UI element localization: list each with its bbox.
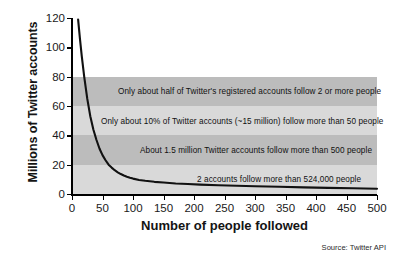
annotation-2: Only about 10% of Twitter accounts (~15 … xyxy=(101,116,383,125)
annotation-1: Only about half of Twitter's registered … xyxy=(118,87,381,96)
x-tick-label: 300 xyxy=(245,202,264,214)
x-tick xyxy=(103,195,104,200)
x-tick xyxy=(286,195,287,200)
x-tick xyxy=(225,195,226,200)
y-tick-label: 80 xyxy=(52,71,65,83)
x-tick-label: 350 xyxy=(276,202,295,214)
x-tick xyxy=(164,195,165,200)
y-axis-title: Millions of Twitter accounts xyxy=(26,7,40,197)
x-tick xyxy=(72,195,73,200)
annotation-4: 2 accounts follow more than 524,000 peop… xyxy=(197,175,361,184)
x-tick xyxy=(194,195,195,200)
x-tick xyxy=(133,195,134,200)
x-tick xyxy=(316,195,317,200)
y-tick-label: 60 xyxy=(52,100,65,112)
source-caption: Source: Twitter API xyxy=(322,243,386,252)
x-tick xyxy=(347,195,348,200)
data-series-line xyxy=(72,18,377,194)
chart-figure: Millions of Twitter accounts 02040608010… xyxy=(0,0,397,264)
x-tick-label: 100 xyxy=(123,202,142,214)
x-tick-label: 50 xyxy=(96,202,109,214)
x-tick-label: 150 xyxy=(154,202,173,214)
x-tick-label: 0 xyxy=(69,202,75,214)
y-tick-label: 120 xyxy=(46,12,65,24)
x-tick-label: 400 xyxy=(306,202,325,214)
y-tick-label: 20 xyxy=(52,159,65,171)
x-tick-label: 450 xyxy=(337,202,356,214)
y-tick-label: 40 xyxy=(52,129,65,141)
x-axis-title: Number of people followed xyxy=(72,218,377,233)
x-tick xyxy=(255,195,256,200)
x-axis-line xyxy=(71,194,377,196)
x-tick xyxy=(377,195,378,200)
x-tick-label: 200 xyxy=(184,202,203,214)
y-tick-label: 100 xyxy=(46,41,65,53)
annotation-3: About 1.5 million Twitter accounts follo… xyxy=(140,146,372,155)
x-tick-label: 250 xyxy=(215,202,234,214)
y-tick-label: 0 xyxy=(59,188,65,200)
plot-area: 020406080100120 050100150200250300350400… xyxy=(72,18,377,194)
x-tick-label: 500 xyxy=(367,202,386,214)
